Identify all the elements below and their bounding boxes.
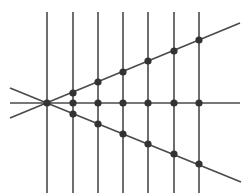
intersection-node bbox=[94, 78, 101, 85]
intersection-node bbox=[144, 99, 151, 106]
intersection-node bbox=[119, 68, 126, 75]
intersection-node bbox=[144, 140, 151, 147]
intersection-node bbox=[195, 99, 202, 106]
intersection-node bbox=[94, 99, 101, 106]
intersection-node bbox=[170, 150, 177, 157]
intersection-node bbox=[195, 160, 202, 167]
intersection-node bbox=[170, 99, 177, 106]
intersection-node bbox=[119, 130, 126, 137]
line-pencil-diagram bbox=[0, 0, 248, 196]
intersection-node bbox=[144, 57, 151, 64]
intersection-node bbox=[170, 47, 177, 54]
intersection-node bbox=[195, 36, 202, 43]
intersection-node bbox=[94, 120, 101, 127]
center-node bbox=[43, 99, 50, 106]
intersection-node bbox=[69, 110, 76, 117]
intersection-node bbox=[119, 99, 126, 106]
intersection-node bbox=[69, 89, 76, 96]
intersection-node bbox=[69, 99, 76, 106]
